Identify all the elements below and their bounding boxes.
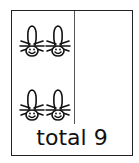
counting-card: total 9 bbox=[11, 10, 133, 156]
octopus-creature-icon bbox=[44, 87, 72, 123]
octopus-creature-icon bbox=[18, 87, 46, 123]
column-divider bbox=[74, 11, 75, 124]
total-label: total 9 bbox=[12, 125, 132, 151]
octopus-creature-icon bbox=[18, 23, 46, 59]
octopus-creature-icon bbox=[44, 23, 72, 59]
